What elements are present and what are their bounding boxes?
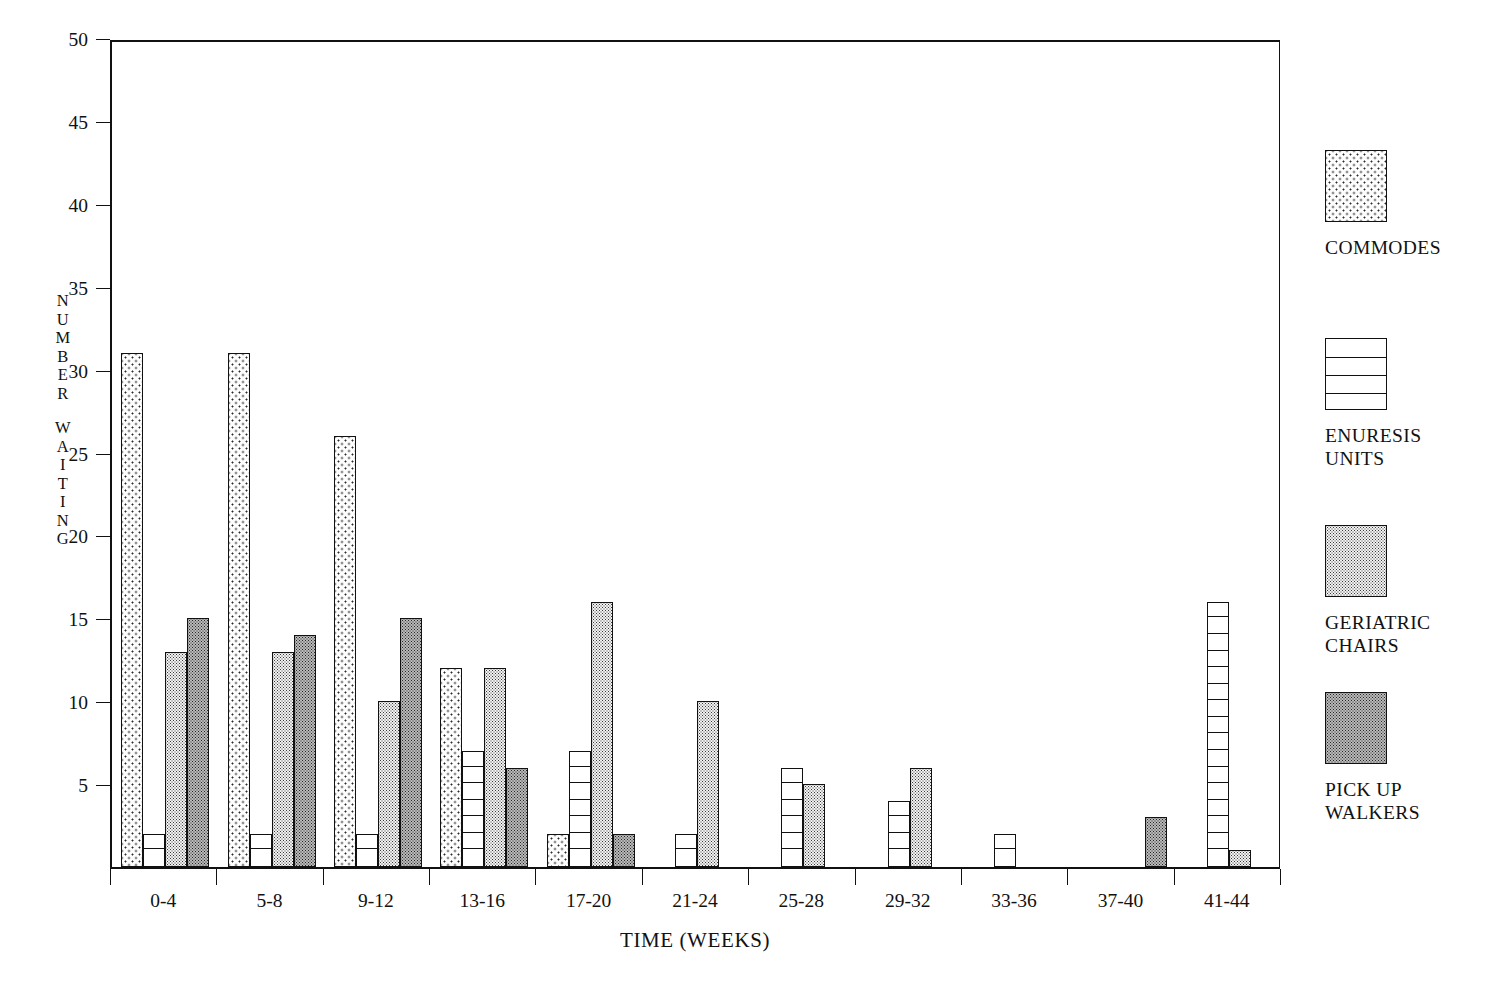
- legend-label-enuresis-units: ENURESIS UNITS: [1325, 424, 1500, 470]
- x-tick-7: [855, 869, 856, 885]
- legend-swatch-enuresis-units: [1325, 338, 1387, 410]
- legend-swatch-pick-up-walkers: [1325, 692, 1387, 764]
- bar-geriatric-chairs-17-20: [591, 602, 613, 867]
- y-tick-label-30: 30: [28, 362, 88, 382]
- bar-pick-up-walkers-17-20: [613, 834, 635, 867]
- x-category-label-17-20: 17-20: [535, 891, 641, 911]
- x-tick-3: [429, 869, 430, 885]
- y-axis-title-letter-1: U: [52, 311, 74, 330]
- x-tick-5: [642, 869, 643, 885]
- rung-pattern: [251, 835, 271, 866]
- bars-layer: [112, 42, 1279, 867]
- x-category-label-37-40: 37-40: [1067, 891, 1173, 911]
- y-axis-title: NUMBERWAITING: [52, 292, 74, 549]
- y-tick-label-35: 35: [28, 279, 88, 299]
- rung-pattern: [782, 769, 802, 867]
- x-tick-6: [748, 869, 749, 885]
- bar-enuresis-units-21-24: [675, 834, 697, 867]
- legend-label-geriatric-chairs: GERIATRIC CHAIRS: [1325, 611, 1500, 657]
- legend-label-pick-up-walkers: PICK UP WALKERS: [1325, 778, 1500, 824]
- y-tick-label-50: 50: [28, 30, 88, 50]
- bar-geriatric-chairs-0-4: [165, 652, 187, 868]
- rung-pattern: [570, 752, 590, 866]
- y-tick-40: [96, 205, 110, 206]
- y-tick-label-15: 15: [28, 610, 88, 630]
- x-tick-4: [535, 869, 536, 885]
- legend-item-geriatric-chairs[interactable]: GERIATRIC CHAIRS: [1325, 525, 1500, 657]
- bar-geriatric-chairs-5-8: [272, 652, 294, 868]
- plot-area: [110, 40, 1280, 869]
- y-axis-title-letter-10: T: [52, 475, 74, 494]
- rung-pattern: [357, 835, 377, 866]
- y-tick-15: [96, 619, 110, 620]
- legend-item-commodes[interactable]: COMMODES: [1325, 150, 1500, 259]
- bar-commodes-9-12: [334, 436, 356, 867]
- bar-geriatric-chairs-21-24: [697, 701, 719, 867]
- rung-pattern: [889, 802, 909, 866]
- y-axis-title-letter-11: I: [52, 493, 74, 512]
- y-tick-label-45: 45: [28, 113, 88, 133]
- bar-enuresis-units-0-4: [143, 834, 165, 867]
- bar-enuresis-units-25-28: [781, 768, 803, 868]
- bar-enuresis-units-29-32: [888, 801, 910, 867]
- y-tick-label-5: 5: [28, 776, 88, 796]
- x-tick-1: [216, 869, 217, 885]
- x-category-label-41-44: 41-44: [1174, 891, 1280, 911]
- x-category-label-29-32: 29-32: [855, 891, 961, 911]
- rung-pattern: [1208, 603, 1228, 866]
- bar-pick-up-walkers-37-40: [1145, 817, 1167, 867]
- y-tick-25: [96, 454, 110, 455]
- bar-enuresis-units-17-20: [569, 751, 591, 867]
- y-tick-20: [96, 536, 110, 537]
- y-tick-label-10: 10: [28, 693, 88, 713]
- bar-geriatric-chairs-9-12: [378, 701, 400, 867]
- y-tick-50: [96, 39, 110, 40]
- x-category-label-5-8: 5-8: [216, 891, 322, 911]
- legend-label-commodes: COMMODES: [1325, 236, 1500, 259]
- bar-geriatric-chairs-29-32: [910, 768, 932, 868]
- y-tick-10: [96, 702, 110, 703]
- bar-commodes-5-8: [228, 353, 250, 867]
- x-tick-9: [1067, 869, 1068, 885]
- x-tick-8: [961, 869, 962, 885]
- x-axis-title: TIME (WEEKS): [110, 928, 1280, 953]
- x-category-label-25-28: 25-28: [748, 891, 854, 911]
- y-tick-label-20: 20: [28, 527, 88, 547]
- bar-enuresis-units-5-8: [250, 834, 272, 867]
- bar-enuresis-units-41-44: [1207, 602, 1229, 867]
- x-tick-0: [110, 869, 111, 885]
- bar-pick-up-walkers-5-8: [294, 635, 316, 867]
- rung-pattern: [995, 835, 1015, 866]
- bar-geriatric-chairs-25-28: [803, 784, 825, 867]
- rung-pattern: [676, 835, 696, 866]
- y-tick-label-40: 40: [28, 196, 88, 216]
- bar-enuresis-units-9-12: [356, 834, 378, 867]
- bar-geriatric-chairs-13-16: [484, 668, 506, 867]
- legend-item-pick-up-walkers[interactable]: PICK UP WALKERS: [1325, 692, 1500, 824]
- x-category-label-13-16: 13-16: [429, 891, 535, 911]
- bar-enuresis-units-33-36: [994, 834, 1016, 867]
- x-tick-10: [1174, 869, 1175, 885]
- y-axis-title-letter-2: M: [52, 329, 74, 348]
- x-tick-11: [1280, 869, 1281, 885]
- bar-pick-up-walkers-9-12: [400, 618, 422, 867]
- cropped-caption-strip: [0, 0, 1505, 10]
- bar-commodes-0-4: [121, 353, 143, 867]
- legend-item-enuresis-units[interactable]: ENURESIS UNITS: [1325, 338, 1500, 470]
- y-tick-label-25: 25: [28, 445, 88, 465]
- y-tick-35: [96, 288, 110, 289]
- y-axis-title-letter-5: R: [52, 385, 74, 404]
- legend-swatch-commodes: [1325, 150, 1387, 222]
- rung-pattern: [144, 835, 164, 866]
- bar-commodes-13-16: [440, 668, 462, 867]
- x-category-label-0-4: 0-4: [110, 891, 216, 911]
- x-category-label-9-12: 9-12: [323, 891, 429, 911]
- y-tick-5: [96, 785, 110, 786]
- x-category-label-21-24: 21-24: [642, 891, 748, 911]
- rung-pattern: [463, 752, 483, 866]
- bar-enuresis-units-13-16: [462, 751, 484, 867]
- bar-pick-up-walkers-13-16: [506, 768, 528, 868]
- y-tick-30: [96, 371, 110, 372]
- y-tick-45: [96, 122, 110, 123]
- bar-pick-up-walkers-0-4: [187, 618, 209, 867]
